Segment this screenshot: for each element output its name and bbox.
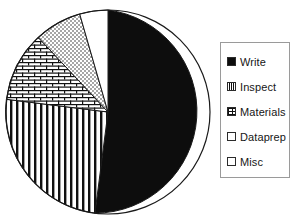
legend-item-dataprep[interactable]: Dataprep bbox=[227, 124, 289, 149]
empty-white-swatch-icon bbox=[227, 157, 236, 166]
legend-label-misc: Misc bbox=[240, 156, 263, 168]
pie-slice-inspect bbox=[6, 99, 108, 213]
legend-label-inspect: Inspect bbox=[240, 81, 276, 93]
pie-chart-plot-area bbox=[4, 6, 214, 216]
legend-label-write: Write bbox=[240, 56, 266, 68]
legend-item-materials[interactable]: Materials bbox=[227, 99, 289, 124]
dotted-pattern-swatch-icon bbox=[227, 132, 236, 141]
solid-black-swatch-icon bbox=[227, 57, 236, 66]
legend-label-dataprep: Dataprep bbox=[240, 131, 286, 143]
legend-item-misc[interactable]: Misc bbox=[227, 149, 289, 174]
brick-pattern-swatch-icon bbox=[227, 107, 236, 116]
chart-legend: Write Inspect Materials Dataprep Misc bbox=[220, 42, 290, 178]
legend-label-materials: Materials bbox=[240, 106, 286, 118]
legend-item-inspect[interactable]: Inspect bbox=[227, 74, 289, 99]
pie-chart-figure: Write Inspect Materials Dataprep Misc bbox=[0, 0, 306, 222]
pie-chart-svg bbox=[4, 6, 214, 216]
legend-item-write[interactable]: Write bbox=[227, 49, 289, 74]
vertical-lines-swatch-icon bbox=[227, 82, 236, 91]
